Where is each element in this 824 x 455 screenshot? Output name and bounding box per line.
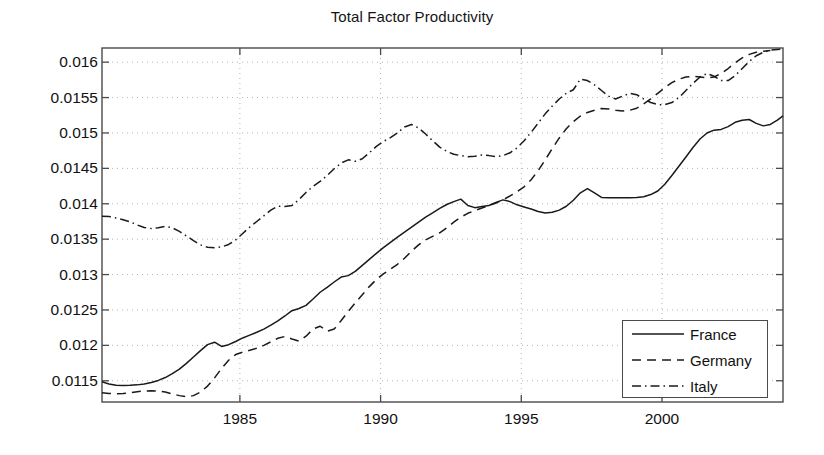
y-axis-tick-labels: 0.01150.0120.01250.0130.01350.0140.01450…	[4, 0, 98, 455]
legend-label: Italy	[690, 378, 718, 395]
legend-label: France	[690, 326, 737, 343]
legend-line-sample-solid	[630, 324, 686, 344]
legend-line-sample-dashdot	[630, 376, 686, 396]
legend-label: Germany	[690, 352, 752, 369]
x-tick-label: 1990	[363, 410, 397, 428]
y-tick-label: 0.0125	[8, 301, 98, 319]
legend-line-sample-dashed	[630, 350, 686, 370]
y-tick-label: 0.016	[8, 53, 98, 71]
y-tick-label: 0.013	[8, 266, 98, 284]
y-tick-label: 0.014	[8, 195, 98, 213]
x-tick-label: 2000	[645, 410, 679, 428]
chart-legend[interactable]: FranceGermanyItaly	[622, 320, 768, 398]
y-tick-label: 0.0155	[8, 89, 98, 107]
legend-item-france[interactable]: France	[623, 321, 769, 347]
y-tick-label: 0.0135	[8, 230, 98, 248]
y-tick-label: 0.0145	[8, 159, 98, 177]
chart-figure: Total Factor Productivity 0.01150.0120.0…	[0, 0, 824, 455]
legend-item-germany[interactable]: Germany	[623, 347, 769, 373]
y-tick-label: 0.015	[8, 124, 98, 142]
legend-item-italy[interactable]: Italy	[623, 373, 769, 399]
y-tick-label: 0.0115	[8, 372, 98, 390]
x-tick-label: 1995	[504, 410, 538, 428]
x-tick-label: 1985	[223, 410, 257, 428]
y-tick-label: 0.012	[8, 336, 98, 354]
